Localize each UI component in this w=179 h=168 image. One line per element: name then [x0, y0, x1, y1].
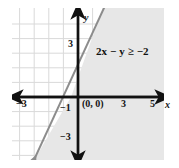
- y-tick-3: 3: [68, 39, 73, 49]
- inequality-graph-figure: y x −3 3 5 3 −1 −3 (0, 0) 2x − y ≥ −2: [0, 0, 179, 168]
- y-tick-neg3: −3: [60, 132, 71, 142]
- coordinate-axes: [12, 8, 164, 160]
- x-tick-3: 3: [121, 99, 126, 109]
- x-tick-neg3: −3: [16, 99, 27, 109]
- inequality-label: 2x − y ≥ −2: [96, 45, 149, 57]
- x-tick-5: 5: [150, 99, 155, 109]
- y-axis-label: y: [84, 13, 88, 23]
- plot-area: [12, 8, 164, 160]
- y-tick-neg1: −1: [60, 103, 71, 113]
- x-axis-label: x: [165, 100, 170, 110]
- origin-label: (0, 0): [82, 99, 104, 109]
